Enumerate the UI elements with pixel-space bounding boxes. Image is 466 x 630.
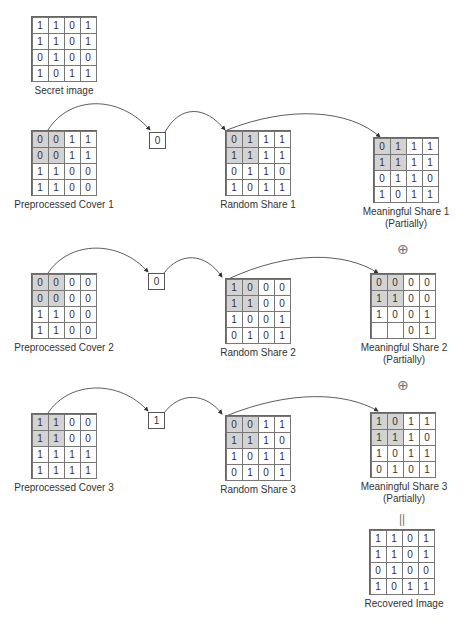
grid-cell: 1 [242,147,259,164]
grid-cell: 0 [80,179,97,196]
meaningful2-grid: 00001100100101 [370,273,436,339]
grid-cell: 0 [48,65,65,82]
grid-cell: 1 [226,311,243,328]
grid-cell: 0 [387,274,404,291]
grid-cell: 1 [32,65,49,82]
grid-cell: 1 [64,446,81,463]
grid-cell: 1 [48,322,65,339]
grid-cell: 1 [258,131,275,148]
grid-cell: 1 [422,138,439,155]
secret-image-label: Secret image [31,85,97,96]
grid-cell: 0 [80,274,97,291]
grid-cell: 1 [422,186,439,203]
bit2-box: 0 [148,273,165,290]
grid-cell: 1 [80,33,97,50]
grid-cell: 0 [386,578,403,595]
grid-cell: 1 [258,147,275,164]
grid-cell: 1 [386,530,403,547]
grid-cell: 1 [258,448,275,465]
grid-cell: 0 [370,562,387,579]
grid-cell: 0 [80,290,97,307]
grid-cell: 1 [419,413,436,430]
grid-cell: 0 [64,274,81,291]
meaningful2-sublabel: (Partially) [350,354,458,365]
grid-cell: 1 [226,448,243,465]
grid-cell: 0 [64,33,81,50]
grid-cell: 1 [418,578,435,595]
grid-cell: 1 [32,306,49,323]
grid-cell: 1 [48,306,65,323]
grid-cell: 1 [387,461,404,478]
grid-cell: 1 [402,578,419,595]
grid-cell: 1 [242,432,259,449]
grid-cell: 1 [80,446,97,463]
grid-cell: 1 [226,295,243,312]
grid-cell: 0 [48,147,65,164]
grid-cell: 0 [403,322,420,339]
grid-cell: 0 [403,306,420,323]
cover1-grid: 0011001111001100 [31,130,97,196]
grid-cell: 0 [48,131,65,148]
grid-cell: 1 [419,306,436,323]
grid-cell: 1 [32,430,49,447]
cover2-grid: 0000000011001100 [31,273,97,339]
grid-cell: 1 [370,546,387,563]
grid-cell: 1 [226,432,243,449]
grid-cell: 0 [64,17,81,34]
grid-cell: 1 [32,33,49,50]
grid-cell: 0 [390,186,407,203]
random1-grid: 0111111101101011 [225,130,291,196]
grid-cell: 0 [226,416,243,433]
grid-cell: 0 [418,562,435,579]
grid-cell: 0 [387,306,404,323]
grid-cell: 1 [406,186,423,203]
grid-cell: 1 [403,413,420,430]
grid-cell: 1 [371,290,388,307]
grid-cell: 1 [418,546,435,563]
grid-cell: 1 [274,416,291,433]
grid-cell: 0 [32,147,49,164]
grid-cell: 0 [32,274,49,291]
random2-grid: 1000110010010101 [225,278,291,344]
grid-cell: 1 [370,578,387,595]
grid-cell: 1 [80,462,97,479]
cover3-grid: 1100110011111111 [31,413,97,479]
grid-cell: 1 [406,138,423,155]
cover3-label: Preprocessed Cover 3 [4,482,124,493]
grid-cell: 1 [226,147,243,164]
grid-cell: 0 [274,432,291,449]
grid-cell: 1 [242,464,259,481]
meaningful2-label: Meaningful Share 2 [350,342,458,353]
grid-cell: 0 [80,49,97,66]
grid-cell: 1 [403,445,420,462]
grid-cell: 1 [48,179,65,196]
grid-cell: 0 [64,179,81,196]
arrow-bit1-to-random1 [165,111,225,132]
grid-cell: 0 [387,445,404,462]
grid-cell: 0 [258,311,275,328]
grid-cell: 0 [274,163,291,180]
grid-cell: 0 [419,290,436,307]
grid-cell: 1 [32,446,49,463]
bit3-box: 1 [148,412,165,429]
grid-cell: 0 [242,311,259,328]
grid-cell: 1 [48,163,65,180]
meaningful1-grid: 0111111101101011 [373,137,439,203]
grid-cell: 0 [226,131,243,148]
grid-cell: 0 [371,461,388,478]
grid-cell: 1 [422,154,439,171]
grid-cell: 0 [274,295,291,312]
grid-cell: 1 [274,131,291,148]
grid-cell: 1 [48,414,65,431]
meaningful3-grid: 1011111010110101 [370,412,436,478]
meaningful3-sublabel: (Partially) [350,493,458,504]
bit1-box: 0 [149,132,166,149]
grid-cell: 1 [64,131,81,148]
grid-cell: 0 [226,464,243,481]
grid-cell: 1 [419,322,436,339]
grid-cell: 1 [371,413,388,430]
grid-cell: 1 [387,290,404,307]
recovered-image-label: Recovered Image [350,598,458,609]
meaningful1-label: Meaningful Share 1 [352,206,460,217]
grid-cell: 1 [32,163,49,180]
